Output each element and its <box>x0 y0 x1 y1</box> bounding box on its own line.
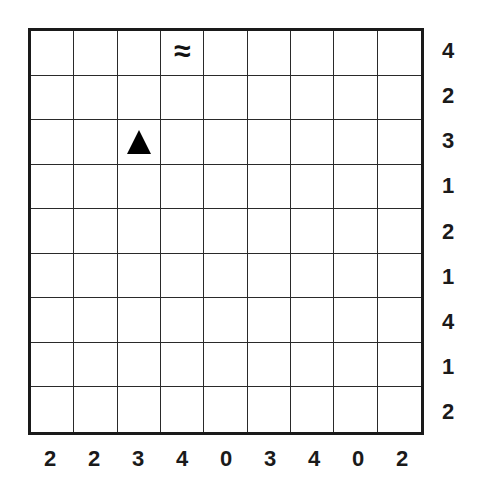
row-clue: 3 <box>436 128 460 154</box>
grid-cell-r5-c2[interactable] <box>118 254 161 299</box>
grid-cell-r5-c8[interactable] <box>378 254 421 299</box>
grid-cell-r8-c3[interactable] <box>161 387 204 432</box>
grid-cell-r5-c3[interactable] <box>161 254 204 299</box>
grid-cell-r4-c8[interactable] <box>378 209 421 254</box>
column-clue: 0 <box>336 446 380 472</box>
grid-cell-r7-c4[interactable] <box>204 343 247 388</box>
grid-cell-r3-c6[interactable] <box>291 165 334 210</box>
column-clue: 4 <box>292 446 336 472</box>
grid-cell-r4-c6[interactable] <box>291 209 334 254</box>
grid-cell-r2-c8[interactable] <box>378 120 421 165</box>
grid-cell-r7-c0[interactable] <box>31 343 74 388</box>
column-clue: 2 <box>28 446 72 472</box>
grid-cell-r1-c1[interactable] <box>74 76 117 121</box>
grid-cell-r7-c8[interactable] <box>378 343 421 388</box>
grid-cell-r1-c7[interactable] <box>334 76 377 121</box>
grid-cell-r4-c4[interactable] <box>204 209 247 254</box>
grid-cell-r8-c0[interactable] <box>31 387 74 432</box>
column-clue: 3 <box>248 446 292 472</box>
grid-cell-r3-c0[interactable] <box>31 165 74 210</box>
grid-cell-r6-c0[interactable] <box>31 298 74 343</box>
grid-cell-r3-c5[interactable] <box>248 165 291 210</box>
grid-cell-r6-c3[interactable] <box>161 298 204 343</box>
grid-cell-r1-c6[interactable] <box>291 76 334 121</box>
grid-cell-r2-c0[interactable] <box>31 120 74 165</box>
wave-icon: ≈ <box>174 36 190 66</box>
grid-cell-r2-c4[interactable] <box>204 120 247 165</box>
grid-cell-r6-c7[interactable] <box>334 298 377 343</box>
grid-cell-r1-c3[interactable] <box>161 76 204 121</box>
grid-cell-r8-c7[interactable] <box>334 387 377 432</box>
grid-cell-r6-c6[interactable] <box>291 298 334 343</box>
grid-cell-r2-c3[interactable] <box>161 120 204 165</box>
grid-cell-r0-c1[interactable] <box>74 31 117 76</box>
grid-cell-r0-c4[interactable] <box>204 31 247 76</box>
grid-cell-r5-c1[interactable] <box>74 254 117 299</box>
column-clue: 2 <box>380 446 424 472</box>
column-clue: 3 <box>116 446 160 472</box>
triangle-icon <box>127 130 151 154</box>
grid-cell-r8-c8[interactable] <box>378 387 421 432</box>
grid-cell-r7-c5[interactable] <box>248 343 291 388</box>
grid-cell-r6-c1[interactable] <box>74 298 117 343</box>
grid-cell-r7-c3[interactable] <box>161 343 204 388</box>
grid-cell-r6-c5[interactable] <box>248 298 291 343</box>
grid-cell-r7-c1[interactable] <box>74 343 117 388</box>
grid-cell-r4-c2[interactable] <box>118 209 161 254</box>
grid-cell-r1-c0[interactable] <box>31 76 74 121</box>
grid-cell-r6-c4[interactable] <box>204 298 247 343</box>
grid-cell-r8-c1[interactable] <box>74 387 117 432</box>
grid-cell-r6-c8[interactable] <box>378 298 421 343</box>
grid-cell-r2-c2[interactable] <box>118 120 161 165</box>
grid-cell-r7-c6[interactable] <box>291 343 334 388</box>
row-clue: 2 <box>436 219 460 245</box>
row-clue: 1 <box>436 264 460 290</box>
grid-cell-r1-c5[interactable] <box>248 76 291 121</box>
grid-cell-r4-c7[interactable] <box>334 209 377 254</box>
grid-cell-r4-c5[interactable] <box>248 209 291 254</box>
grid-cell-r7-c2[interactable] <box>118 343 161 388</box>
grid-cell-r5-c0[interactable] <box>31 254 74 299</box>
grid-cell-r6-c2[interactable] <box>118 298 161 343</box>
grid-cell-r0-c5[interactable] <box>248 31 291 76</box>
grid-cell-r8-c4[interactable] <box>204 387 247 432</box>
row-clue: 4 <box>436 309 460 335</box>
grid-cell-r8-c2[interactable] <box>118 387 161 432</box>
grid-cell-r3-c7[interactable] <box>334 165 377 210</box>
grid-cell-r5-c7[interactable] <box>334 254 377 299</box>
grid-cell-r1-c2[interactable] <box>118 76 161 121</box>
grid-cell-r2-c7[interactable] <box>334 120 377 165</box>
row-clue: 4 <box>436 38 460 64</box>
grid-cell-r8-c5[interactable] <box>248 387 291 432</box>
grid-cell-r0-c8[interactable] <box>378 31 421 76</box>
grid-cell-r5-c4[interactable] <box>204 254 247 299</box>
grid-cell-r5-c6[interactable] <box>291 254 334 299</box>
grid-cell-r0-c2[interactable] <box>118 31 161 76</box>
grid-cell-r7-c7[interactable] <box>334 343 377 388</box>
grid-cell-r3-c1[interactable] <box>74 165 117 210</box>
grid-cell-r8-c6[interactable] <box>291 387 334 432</box>
grid-cell-r2-c1[interactable] <box>74 120 117 165</box>
grid-cell-r3-c2[interactable] <box>118 165 161 210</box>
row-clue: 2 <box>436 83 460 109</box>
grid-cell-r3-c3[interactable] <box>161 165 204 210</box>
row-clue: 2 <box>436 399 460 425</box>
grid-cell-r2-c5[interactable] <box>248 120 291 165</box>
grid-cell-r4-c1[interactable] <box>74 209 117 254</box>
row-clue: 1 <box>436 354 460 380</box>
grid-cell-r5-c5[interactable] <box>248 254 291 299</box>
column-clue: 0 <box>204 446 248 472</box>
grid-cell-r4-c0[interactable] <box>31 209 74 254</box>
grid-cell-r0-c0[interactable] <box>31 31 74 76</box>
column-clue: 2 <box>72 446 116 472</box>
grid-cell-r4-c3[interactable] <box>161 209 204 254</box>
grid-cell-r3-c4[interactable] <box>204 165 247 210</box>
grid-cell-r2-c6[interactable] <box>291 120 334 165</box>
grid-cell-r0-c6[interactable] <box>291 31 334 76</box>
grid-cell-r0-c7[interactable] <box>334 31 377 76</box>
row-clue: 1 <box>436 173 460 199</box>
grid-cell-r0-c3[interactable]: ≈ <box>161 31 204 76</box>
grid-cell-r1-c8[interactable] <box>378 76 421 121</box>
grid-cell-r3-c8[interactable] <box>378 165 421 210</box>
grid-cell-r1-c4[interactable] <box>204 76 247 121</box>
